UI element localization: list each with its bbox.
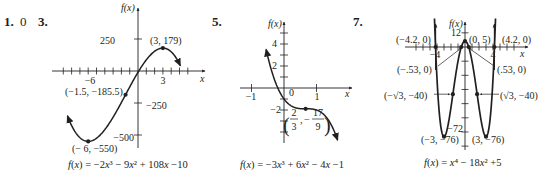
key-point	[161, 46, 165, 50]
svg-text:9: 9	[316, 121, 321, 132]
svg-text:17: 17	[313, 107, 323, 118]
x-tick-label-1: 1	[315, 91, 320, 102]
x-tick-label-3: 3	[161, 75, 166, 86]
x-tick-label-neg1: −1	[246, 91, 257, 102]
x-tick-label-neg4: −4	[430, 49, 441, 60]
point-label-min: (− 6, −550)	[72, 143, 117, 155]
y-tick-label-neg500: −500	[113, 132, 134, 143]
key-point	[475, 92, 479, 96]
svg-text:3: 3	[292, 121, 297, 132]
svg-text:): )	[324, 114, 331, 137]
y-axis-label: f(x)	[121, 2, 136, 14]
y-tick-label-neg250: −250	[146, 100, 167, 111]
key-point	[304, 107, 308, 111]
chart-problem-5: f(x) x 4 2 −2 −1 0 1 ( 2 3 , − 17 9 ) f(…	[240, 18, 352, 171]
key-point	[459, 45, 463, 49]
point-label-neg3: (−3, −76)	[421, 134, 459, 146]
x-tick-label-neg6: −6	[85, 75, 96, 86]
point-label-neg053: (−.53, 0)	[397, 64, 432, 76]
y-tick-label-250: 250	[100, 35, 115, 46]
x-tick-label-4: 4	[491, 49, 496, 60]
equation: f(x) = −2x³ − 9x² + 108x −10	[68, 159, 188, 171]
key-point	[123, 93, 127, 97]
point-label-neg4-2: (−4.2, 0)	[396, 34, 431, 46]
key-point	[463, 39, 467, 43]
chart-problem-7: f(x) x 12 −72 −4 4 (−4.2, 0) (0, 5) (4.2…	[384, 18, 538, 169]
point-label-3: (3, −76)	[472, 134, 504, 146]
graphs-canvas: f(x) x 250 −250 −500 −6 3 (3, 179) (−1.5…	[0, 0, 550, 188]
y-axis-label: f(x)	[268, 18, 283, 30]
point-label-0-5: (0, 5)	[469, 34, 491, 46]
chart-problem-3: f(x) x 250 −250 −500 −6 3 (3, 179) (−1.5…	[52, 2, 205, 171]
y-tick-label-neg72: −72	[447, 123, 463, 134]
svg-text:2: 2	[292, 107, 297, 118]
key-points	[304, 107, 308, 111]
y-tick-label-12: 12	[451, 27, 461, 38]
y-tick-label-2: 2	[272, 60, 277, 71]
svg-text:,: ,	[300, 114, 303, 125]
point-label-neg-sqrt3: (−√3, −40)	[384, 90, 427, 102]
point-label-4-2: (4.2, 0)	[502, 34, 531, 46]
axes	[52, 8, 205, 148]
point-label-053: (.53, 0)	[497, 64, 526, 76]
point-label-inflection: (−1.5, −185.5)	[65, 86, 123, 98]
leader-lines	[434, 48, 499, 94]
x-axis-label: x	[199, 73, 205, 84]
x-tick-label-0: 0	[289, 87, 294, 98]
x-axis-label: x	[519, 48, 525, 59]
x-axis-label: x	[344, 88, 350, 99]
key-point	[451, 92, 455, 96]
key-point	[467, 45, 471, 49]
point-label-inflection: ( 2 3 , − 17 9 )	[283, 107, 331, 137]
y-tick-label-4: 4	[272, 38, 277, 49]
point-label-sqrt3: (√3, −40)	[500, 90, 538, 102]
equation: f(x) = −3x³ + 6x² − 4x −1	[240, 159, 344, 171]
svg-text:−: −	[304, 114, 310, 125]
equation: f(x) = x⁴ − 18x² +5	[424, 157, 501, 169]
y-tick-label-neg2: −2	[270, 104, 281, 115]
point-label-max: (3, 179)	[150, 35, 182, 47]
svg-text:(: (	[283, 114, 290, 137]
